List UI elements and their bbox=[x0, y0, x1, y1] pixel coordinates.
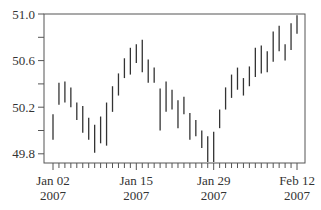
price-bars bbox=[53, 15, 297, 162]
y-tick-label: 51.0 bbox=[12, 7, 35, 22]
x-tick-label-year: 2007 bbox=[201, 188, 228, 203]
x-tick-label-year: 2007 bbox=[40, 188, 67, 203]
x-tick-label-date: Feb 12 bbox=[279, 173, 315, 188]
x-tick-label-date: Jan 02 bbox=[36, 173, 70, 188]
y-tick-label: 49.8 bbox=[12, 146, 35, 161]
price-range-chart: 49.850.250.651.0 Jan 022007Jan 152007Jan… bbox=[0, 0, 321, 210]
x-tick-label-year: 2007 bbox=[284, 188, 311, 203]
x-axis: Jan 022007Jan 152007Jan 292007Feb 122007 bbox=[36, 163, 315, 203]
x-tick-label-year: 2007 bbox=[123, 188, 150, 203]
x-tick-label-date: Jan 29 bbox=[197, 173, 231, 188]
plot-border bbox=[44, 14, 305, 163]
x-tick-label-date: Jan 15 bbox=[120, 173, 154, 188]
y-tick-label: 50.6 bbox=[12, 53, 35, 68]
plot-frame bbox=[44, 14, 305, 163]
y-tick-label: 50.2 bbox=[12, 100, 35, 115]
y-axis: 49.850.250.651.0 bbox=[12, 7, 44, 162]
